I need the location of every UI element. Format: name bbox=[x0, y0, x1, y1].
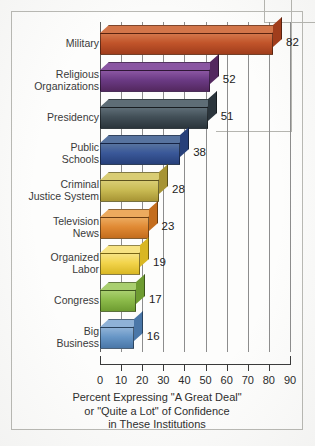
x-tick-label-80: 80 bbox=[259, 374, 279, 386]
x-tick-90 bbox=[290, 356, 291, 365]
x-tick-label-40: 40 bbox=[174, 374, 194, 386]
x-tick-30 bbox=[163, 364, 164, 371]
x-tick-70 bbox=[248, 364, 249, 371]
x-tick-label-50: 50 bbox=[196, 374, 216, 386]
x-tick-50 bbox=[206, 364, 207, 371]
bar bbox=[100, 143, 189, 173]
category-label: Big Business bbox=[56, 325, 99, 349]
bar-top-face bbox=[100, 135, 189, 143]
bar-value-label: 19 bbox=[153, 256, 166, 268]
category-label: Congress bbox=[54, 294, 99, 306]
bar-side-face bbox=[180, 127, 189, 157]
x-tick-label-90: 90 bbox=[280, 374, 300, 386]
bar-front-face bbox=[100, 70, 210, 92]
bar-front-face bbox=[100, 253, 140, 275]
caption-line-1: Percent Expressing "A Great Deal" bbox=[18, 391, 296, 405]
bar-value-label: 17 bbox=[149, 293, 162, 305]
x-tick-label-20: 20 bbox=[132, 374, 152, 386]
bar bbox=[100, 107, 217, 137]
category-label: Religious Organizations bbox=[34, 68, 99, 92]
bar-front-face bbox=[100, 143, 180, 165]
bar bbox=[100, 70, 219, 100]
bar-value-label: 28 bbox=[172, 183, 185, 195]
bar-top-face bbox=[100, 99, 217, 107]
bar-front-face bbox=[100, 217, 149, 239]
category-label: Presidency bbox=[47, 111, 99, 123]
bar bbox=[100, 327, 143, 357]
x-tick-80 bbox=[269, 364, 270, 371]
bar-value-label: 23 bbox=[162, 220, 175, 232]
x-tick-label-30: 30 bbox=[153, 374, 173, 386]
bar-top-face bbox=[100, 172, 168, 180]
category-label: Organized Labor bbox=[51, 251, 99, 275]
x-axis-line bbox=[100, 364, 291, 365]
gridline-70 bbox=[248, 22, 249, 352]
x-tick-20 bbox=[142, 364, 143, 371]
bar-front-face bbox=[100, 107, 208, 129]
bar-top-face bbox=[100, 62, 219, 70]
category-label: Criminal Justice System bbox=[28, 178, 99, 202]
gridline-90 bbox=[290, 22, 291, 352]
x-tick-label-70: 70 bbox=[238, 374, 258, 386]
bar-front-face bbox=[100, 290, 136, 312]
scanned-page: Percent Expressing "A Great Deal" or "Qu… bbox=[0, 0, 315, 446]
bar-front-face bbox=[100, 327, 134, 349]
chart-caption: Percent Expressing "A Great Deal" or "Qu… bbox=[18, 391, 296, 432]
bar-front-face bbox=[100, 33, 273, 55]
gridline-60 bbox=[227, 22, 228, 352]
x-tick-0 bbox=[100, 356, 101, 365]
x-tick-label-10: 10 bbox=[111, 374, 131, 386]
x-tick-40 bbox=[184, 364, 185, 371]
bar-top-face bbox=[100, 25, 282, 33]
x-tick-60 bbox=[227, 364, 228, 371]
bar-value-label: 16 bbox=[147, 330, 160, 342]
bar bbox=[100, 33, 282, 63]
category-label: Television News bbox=[53, 215, 99, 239]
bar-value-label: 38 bbox=[193, 146, 206, 158]
gridline-80 bbox=[269, 22, 270, 352]
bar-front-face bbox=[100, 180, 159, 202]
category-label: Public Schools bbox=[62, 141, 99, 165]
x-tick-label-60: 60 bbox=[217, 374, 237, 386]
caption-line-3: in These Institutions bbox=[18, 418, 296, 432]
x-tick-10 bbox=[121, 364, 122, 371]
category-label: Military bbox=[66, 37, 99, 49]
bar-value-label: 51 bbox=[221, 110, 234, 122]
caption-line-2: or "Quite a Lot" of Confidence bbox=[18, 405, 296, 419]
bar-value-label: 52 bbox=[223, 73, 236, 85]
bar-value-label: 82 bbox=[286, 36, 299, 48]
x-tick-label-0: 0 bbox=[90, 374, 110, 386]
